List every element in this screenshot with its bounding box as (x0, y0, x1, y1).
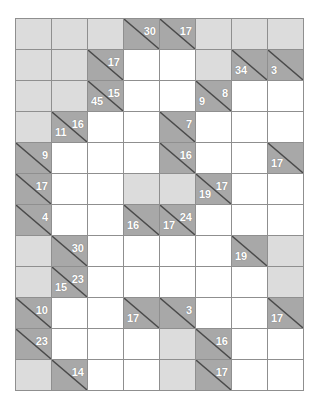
kakuro-block-cell (16, 81, 52, 112)
kakuro-entry-cell[interactable] (124, 329, 160, 360)
kakuro-entry-cell[interactable] (124, 360, 160, 391)
kakuro-block-cell (160, 174, 196, 205)
kakuro-entry-cell[interactable] (160, 236, 196, 267)
kakuro-entry-cell[interactable] (88, 236, 124, 267)
kakuro-entry-cell[interactable] (196, 205, 232, 236)
kakuro-entry-cell[interactable] (88, 267, 124, 298)
kakuro-entry-cell[interactable] (232, 81, 268, 112)
kakuro-clue-cell: 7 (160, 112, 196, 143)
kakuro-entry-cell[interactable] (268, 112, 304, 143)
across-clue-number: 14 (72, 367, 84, 378)
kakuro-clue-cell: 16 (196, 329, 232, 360)
kakuro-entry-cell[interactable] (124, 50, 160, 81)
kakuro-entry-cell[interactable] (160, 81, 196, 112)
kakuro-entry-cell[interactable] (88, 205, 124, 236)
down-clue-number: 9 (199, 96, 205, 107)
kakuro-entry-cell[interactable] (232, 298, 268, 329)
kakuro-block-cell (52, 50, 88, 81)
across-clue-number: 17 (180, 26, 192, 37)
kakuro-entry-cell[interactable] (232, 360, 268, 391)
kakuro-row: 1017317 (16, 298, 304, 329)
across-clue-number: 24 (180, 212, 192, 223)
kakuro-entry-cell[interactable] (196, 112, 232, 143)
kakuro-entry-cell[interactable] (52, 205, 88, 236)
kakuro-entry-cell[interactable] (268, 360, 304, 391)
kakuro-clue-cell: 2417 (160, 205, 196, 236)
kakuro-entry-cell[interactable] (124, 236, 160, 267)
across-clue-number: 17 (216, 367, 228, 378)
kakuro-clue-cell: 23 (16, 329, 52, 360)
kakuro-entry-cell[interactable] (196, 298, 232, 329)
across-clue-number: 4 (42, 212, 48, 223)
across-clue-number: 16 (216, 336, 228, 347)
kakuro-entry-cell[interactable] (124, 267, 160, 298)
kakuro-entry-cell[interactable] (88, 143, 124, 174)
kakuro-entry-cell[interactable] (52, 298, 88, 329)
kakuro-entry-cell[interactable] (52, 174, 88, 205)
kakuro-entry-cell[interactable] (196, 143, 232, 174)
kakuro-entry-cell[interactable] (124, 143, 160, 174)
kakuro-row: 3019 (16, 236, 304, 267)
across-clue-number: 30 (144, 26, 156, 37)
kakuro-clue-cell: 17 (160, 19, 196, 50)
kakuro-block-cell (52, 19, 88, 50)
kakuro-grid-body: 3017173431545891611791617171719416241730… (16, 19, 304, 391)
kakuro-entry-cell[interactable] (196, 236, 232, 267)
down-clue-number: 11 (55, 127, 67, 138)
across-clue-number: 10 (36, 305, 48, 316)
kakuro-entry-cell[interactable] (88, 329, 124, 360)
kakuro-entry-cell[interactable] (160, 50, 196, 81)
kakuro-entry-cell[interactable] (268, 81, 304, 112)
kakuro-entry-cell[interactable] (88, 174, 124, 205)
across-clue-number: 17 (216, 181, 228, 192)
across-clue-number: 23 (36, 336, 48, 347)
kakuro-entry-cell[interactable] (232, 143, 268, 174)
down-clue-number: 17 (127, 313, 139, 324)
down-clue-number: 17 (271, 313, 283, 324)
across-clue-number: 8 (222, 88, 228, 99)
kakuro-clue-cell: 30 (52, 236, 88, 267)
kakuro-entry-cell[interactable] (268, 205, 304, 236)
kakuro-entry-cell[interactable] (52, 143, 88, 174)
down-clue-number: 17 (271, 158, 283, 169)
kakuro-block-cell (16, 236, 52, 267)
kakuro-block-cell (268, 267, 304, 298)
kakuro-clue-cell: 16 (124, 205, 160, 236)
kakuro-entry-cell[interactable] (232, 329, 268, 360)
kakuro-clue-cell: 17 (16, 174, 52, 205)
kakuro-row: 171719 (16, 174, 304, 205)
kakuro-entry-cell[interactable] (268, 329, 304, 360)
kakuro-entry-cell[interactable] (124, 81, 160, 112)
kakuro-entry-cell[interactable] (232, 174, 268, 205)
across-clue-number: 30 (72, 243, 84, 254)
kakuro-clue-cell: 17 (268, 298, 304, 329)
kakuro-entry-cell[interactable] (160, 267, 196, 298)
kakuro-entry-cell[interactable] (196, 267, 232, 298)
kakuro-entry-cell[interactable] (52, 329, 88, 360)
down-clue-number: 15 (55, 282, 67, 293)
kakuro-entry-cell[interactable] (88, 112, 124, 143)
kakuro-clue-cell: 30 (124, 19, 160, 50)
kakuro-clue-cell: 9 (16, 143, 52, 174)
kakuro-grid: 3017173431545891611791617171719416241730… (15, 18, 304, 391)
kakuro-row: 16117 (16, 112, 304, 143)
kakuro-clue-cell: 2315 (52, 267, 88, 298)
kakuro-entry-cell[interactable] (88, 360, 124, 391)
kakuro-block-cell (124, 174, 160, 205)
kakuro-block-cell (88, 19, 124, 50)
kakuro-entry-cell[interactable] (124, 112, 160, 143)
kakuro-block-cell (16, 50, 52, 81)
kakuro-entry-cell[interactable] (232, 267, 268, 298)
kakuro-block-cell (268, 19, 304, 50)
kakuro-entry-cell[interactable] (232, 205, 268, 236)
down-clue-number: 17 (163, 220, 175, 231)
kakuro-block-cell (268, 236, 304, 267)
down-clue-number: 3 (271, 65, 277, 76)
kakuro-block-cell (16, 267, 52, 298)
kakuro-entry-cell[interactable] (232, 112, 268, 143)
kakuro-entry-cell[interactable] (88, 298, 124, 329)
kakuro-block-cell (160, 360, 196, 391)
kakuro-entry-cell[interactable] (268, 174, 304, 205)
across-clue-number: 9 (42, 150, 48, 161)
down-clue-number: 45 (91, 96, 103, 107)
